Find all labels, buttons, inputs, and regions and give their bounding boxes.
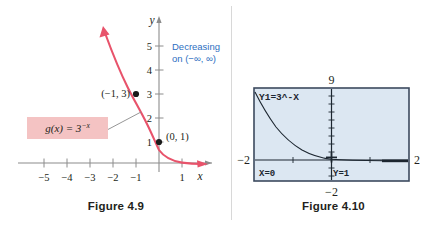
x-tick-label-1: 1 [179,172,184,183]
curve-arrowhead-top [100,26,110,38]
point-marker-neg1-3 [133,91,139,97]
x-axis-label: x [196,170,203,182]
figure-4-10-panel: Y1=3^-X X=0 Y=1 9 −2 −2 2 Figure 4.10 [232,0,435,226]
calc-equation-label: Y1=3^-X [259,92,299,103]
x-tick-label-neg5: −5 [38,172,49,183]
y-tick-label-5: 5 [147,41,152,52]
x-tick-label-neg1: −1 [130,172,141,183]
decreasing-annotation-line1: Decreasing [172,41,220,52]
x-axis-arrowhead [205,160,212,165]
decreasing-annotation-line2: on (−∞, ∞) [172,53,216,64]
callout-leader-line [107,112,141,130]
point-label-0-1: (0, 1) [166,131,189,143]
calc-trace-y-readout: Y=1 [333,169,350,179]
window-ymin-label: −2 [325,185,338,199]
window-ymax-label: 9 [329,73,335,87]
window-xmax-label: 2 [414,153,420,167]
graph-cartesian-plot: −5 −4 −3 −2 −1 1 1 2 3 4 5 x y (−1, 3) (… [0,0,232,200]
y-tick-label-4: 4 [147,65,153,76]
y-tick-label-2: 2 [147,113,152,124]
y-tick-label-3: 3 [147,89,152,100]
figure-4-10-caption: Figure 4.10 [232,200,435,212]
point-label-neg1-3: (−1, 3) [101,88,130,100]
x-tick-label-neg2: −2 [107,172,118,183]
function-callout-base: g(x) = 3 [45,122,82,135]
calc-trace-x-readout: X=0 [259,169,275,179]
function-callout-exponent: −x [81,121,90,130]
figure-4-9-panel: −5 −4 −3 −2 −1 1 1 2 3 4 5 x y (−1, 3) (… [0,0,232,226]
window-xmin-label: −2 [237,153,250,167]
y-tick-label-1: 1 [147,137,152,148]
y-axis-arrowhead [156,16,161,23]
graphing-calculator-screen: Y1=3^-X X=0 Y=1 9 −2 −2 2 [232,0,435,200]
x-tick-label-neg3: −3 [84,172,95,183]
x-tick-label-neg4: −4 [61,172,73,183]
point-marker-0-1 [156,139,162,145]
y-axis-label: y [148,14,155,27]
figure-4-9-caption: Figure 4.9 [0,200,232,212]
